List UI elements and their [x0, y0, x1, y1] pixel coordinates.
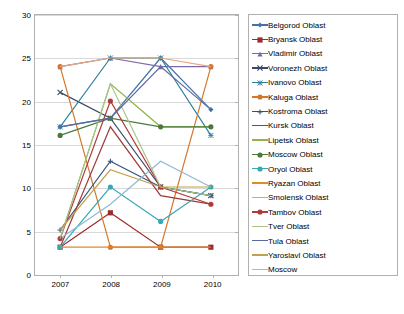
legend-label: Yaroslavl Oblast [268, 251, 326, 260]
legend-item[interactable]: Vladimir Oblast [252, 47, 395, 61]
legend-marker-icon [252, 76, 268, 90]
chart-container: 051015202530 2007200820092010 Belgorod O… [0, 0, 404, 314]
legend-label: Moscow [268, 265, 297, 274]
legend-label: Belgorod Oblast [268, 21, 325, 30]
legend-marker-icon [252, 248, 268, 262]
legend-label: Tambov Oblast [268, 208, 321, 217]
legend-label: Kursk Oblast [268, 121, 314, 130]
legend-label: Moscow Oblast [268, 150, 323, 159]
plot-area [34, 14, 239, 276]
data-point [257, 37, 262, 42]
y-tick-label: 15 [22, 141, 31, 150]
y-tick-label: 10 [22, 184, 31, 193]
x-tick [213, 275, 214, 278]
legend-marker-icon [252, 47, 268, 61]
data-point [257, 166, 262, 171]
x-tick-label: 2008 [102, 280, 120, 289]
legend-label: Oryol Oblast [268, 165, 312, 174]
legend-label: Voronezh Oblast [268, 64, 327, 73]
legend-item[interactable]: Tambov Oblast [252, 205, 395, 219]
y-tick-label: 30 [22, 11, 31, 20]
legend-marker-icon [252, 133, 268, 147]
data-point [58, 133, 63, 138]
legend-item[interactable]: Bryansk Oblast [252, 32, 395, 46]
legend-item[interactable]: Smolensk Oblast [252, 191, 395, 205]
data-point [257, 23, 262, 28]
legend-marker-icon [252, 105, 268, 119]
legend-marker-icon [252, 33, 268, 47]
legend-marker-icon [252, 263, 268, 277]
legend: Belgorod OblastBryansk OblastVladimir Ob… [248, 14, 398, 276]
data-point [257, 51, 262, 56]
legend-label: Tver Oblast [268, 222, 309, 231]
legend-item[interactable]: Kostroma Oblast [252, 104, 395, 118]
legend-item[interactable]: Belgorod Oblast [252, 18, 395, 32]
legend-item[interactable]: Moscow [252, 263, 395, 277]
series-lines [35, 15, 238, 275]
legend-label: Tula Oblast [268, 237, 309, 246]
data-point [208, 124, 213, 129]
data-point [108, 210, 113, 215]
y-tick-label: 20 [22, 97, 31, 106]
legend-marker-icon [252, 61, 268, 75]
x-tick-label: 2009 [153, 280, 171, 289]
y-tick-label: 25 [22, 54, 31, 63]
y-tick [235, 275, 238, 276]
legend-label: Smolensk Oblast [268, 193, 328, 202]
legend-label: Vladimir Oblast [268, 49, 322, 58]
legend-label: Lipetsk Oblast [268, 136, 319, 145]
legend-label: Kaluga Oblast [268, 93, 318, 102]
data-point [257, 80, 262, 85]
data-point [158, 124, 163, 129]
legend-item[interactable]: Moscow Oblast [252, 148, 395, 162]
legend-marker-icon [252, 220, 268, 234]
data-point [208, 133, 213, 138]
legend-item[interactable]: Yaroslavl Oblast [252, 248, 395, 262]
x-tick [162, 275, 163, 278]
y-tick-label: 5 [27, 227, 31, 236]
x-tick [111, 275, 112, 278]
series-line [60, 118, 211, 135]
data-point [108, 184, 113, 189]
legend-marker-icon [252, 90, 268, 104]
legend-item[interactable]: Oryol Oblast [252, 162, 395, 176]
legend-marker-icon [252, 191, 268, 205]
data-point [257, 210, 262, 215]
data-point [257, 95, 262, 100]
x-tick [60, 275, 61, 278]
data-point [208, 202, 213, 207]
data-point [108, 98, 113, 103]
legend-marker-icon [252, 162, 268, 176]
legend-marker-icon [252, 234, 268, 248]
legend-item[interactable]: Kursk Oblast [252, 119, 395, 133]
data-point [158, 219, 163, 224]
legend-item[interactable]: Lipetsk Oblast [252, 133, 395, 147]
legend-marker-icon [252, 18, 268, 32]
data-point [257, 152, 262, 157]
legend-label: Kostroma Oblast [268, 107, 328, 116]
legend-label: Bryansk Oblast [268, 35, 322, 44]
legend-label: Ryazan Oblast [268, 179, 320, 188]
y-tick-label: 0 [27, 271, 31, 280]
data-point [257, 66, 262, 71]
legend-item[interactable]: Tula Oblast [252, 234, 395, 248]
x-tick-label: 2007 [51, 280, 69, 289]
legend-item[interactable]: Ivanovo Oblast [252, 76, 395, 90]
data-point [58, 90, 63, 95]
x-tick-label: 2010 [204, 280, 222, 289]
legend-marker-icon [252, 176, 268, 190]
legend-item[interactable]: Voronezh Oblast [252, 61, 395, 75]
legend-label: Ivanovo Oblast [268, 78, 321, 87]
legend-item[interactable]: Ryazan Oblast [252, 176, 395, 190]
series-line [60, 58, 211, 135]
series-line [60, 213, 211, 247]
legend-marker-icon [252, 205, 268, 219]
legend-item[interactable]: Tver Oblast [252, 219, 395, 233]
legend-marker-icon [252, 148, 268, 162]
data-point [257, 109, 262, 114]
legend-item[interactable]: Kaluga Oblast [252, 90, 395, 104]
legend-marker-icon [252, 119, 268, 133]
